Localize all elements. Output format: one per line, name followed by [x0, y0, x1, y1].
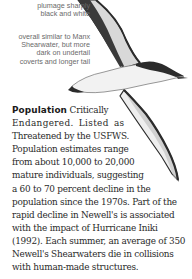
- population-line: Population Critically: [12, 104, 190, 117]
- population-line: a 60 to 70 percent decline in the: [12, 183, 190, 196]
- population-heading: Population: [12, 105, 67, 115]
- population-line: population since the 1970s. Part of the: [12, 196, 190, 209]
- population-section: Population Critically Endangered. Listed…: [12, 104, 190, 274]
- annotation-line: black and white: [0, 10, 90, 18]
- annotation-overall: overall similar to Manx Shearwater, but …: [0, 33, 90, 66]
- annotation-line: coverts and longer tail: [0, 58, 90, 66]
- population-line: with the impact of Hurricane Iniki: [12, 222, 190, 235]
- population-line: mature individuals, suggesting: [12, 169, 190, 182]
- population-line: Population estimates range: [12, 143, 190, 156]
- population-line: from about 10,000 to 20,000: [12, 156, 190, 169]
- population-line: (1992). Each summer, an average of 350: [12, 235, 190, 248]
- population-line: Newell's Shearwaters die in collisions: [12, 248, 190, 261]
- annotation-plumage: plumage sharply black and white: [0, 2, 90, 18]
- population-line: with human-made structures.: [12, 261, 190, 274]
- population-line: Endangered. Listed as: [12, 117, 190, 130]
- population-line: Threatened by the USFWS.: [12, 130, 190, 143]
- population-line: rapid decline in Newell's is associated: [12, 209, 190, 222]
